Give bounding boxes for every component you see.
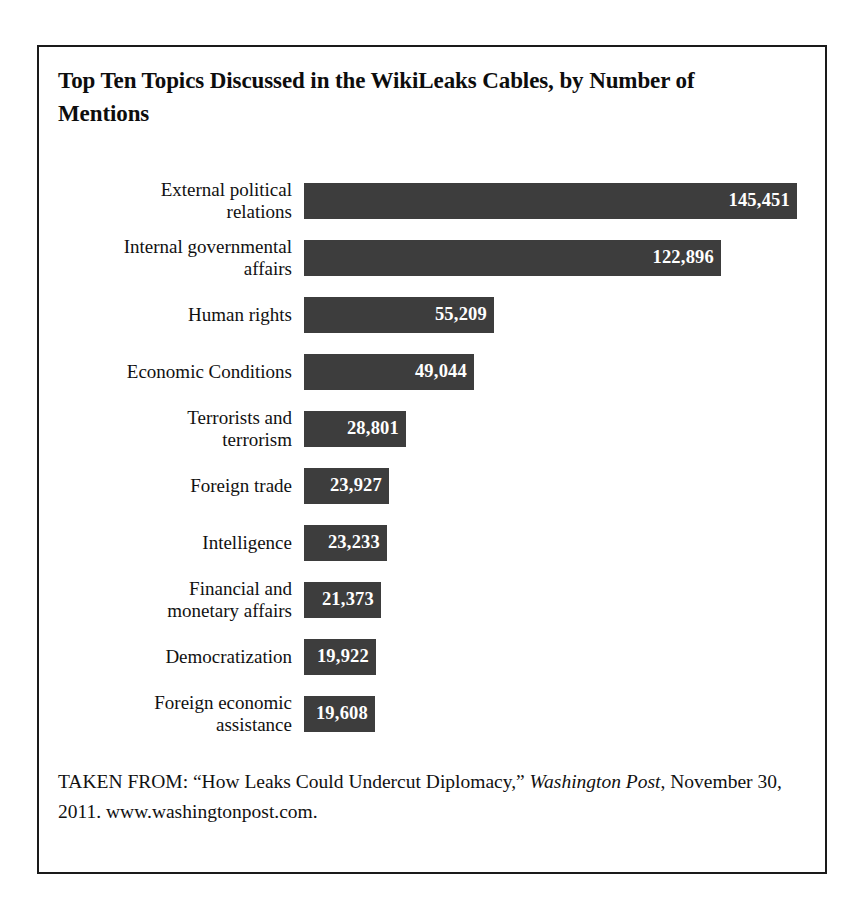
chart-row: Internal governmental affairs122,896 <box>39 229 825 286</box>
bar: 21,373 <box>304 582 381 618</box>
bar-category-label: Financial and monetary affairs <box>39 577 292 621</box>
bar: 19,608 <box>304 696 375 732</box>
bar-category-label: Intelligence <box>39 531 292 553</box>
bar-value-label: 23,233 <box>328 533 380 552</box>
bar-track: 49,044 <box>304 354 474 390</box>
bar-category-label: External political relations <box>39 178 292 222</box>
source-publication: Washington Post <box>530 771 661 792</box>
bar-track: 28,801 <box>304 411 406 447</box>
bar-track: 55,209 <box>304 297 494 333</box>
page-title: Top Ten Topics Discussed in the WikiLeak… <box>58 65 758 130</box>
source-citation: TAKEN FROM: “How Leaks Could Undercut Di… <box>58 767 803 826</box>
bar: 23,233 <box>304 525 387 561</box>
chart-row: Terrorists and terrorism28,801 <box>39 400 825 457</box>
bar-category-label: Terrorists and terrorism <box>39 406 292 450</box>
bar: 23,927 <box>304 468 389 504</box>
bar: 122,896 <box>304 240 721 276</box>
bar-value-label: 19,922 <box>317 647 369 666</box>
bar-track: 19,922 <box>304 639 376 675</box>
bar-category-label: Democratization <box>39 645 292 667</box>
figure-frame: Top Ten Topics Discussed in the WikiLeak… <box>37 45 827 874</box>
chart-row: External political relations145,451 <box>39 172 825 229</box>
bar-category-label: Human rights <box>39 303 292 325</box>
chart-row: Democratization19,922 <box>39 628 825 685</box>
bar-value-label: 122,896 <box>652 248 714 267</box>
bar-value-label: 21,373 <box>322 590 374 609</box>
chart-row: Financial and monetary affairs21,373 <box>39 571 825 628</box>
bar-value-label: 145,451 <box>728 191 790 210</box>
bar: 49,044 <box>304 354 474 390</box>
bar-track: 23,927 <box>304 468 389 504</box>
bar: 145,451 <box>304 183 797 219</box>
bar: 55,209 <box>304 297 494 333</box>
chart-row: Human rights55,209 <box>39 286 825 343</box>
bar-value-label: 19,608 <box>316 704 368 723</box>
bar-track: 145,451 <box>304 183 797 219</box>
bar-chart: External political relations145,451Inter… <box>39 172 825 752</box>
bar-category-label: Economic Conditions <box>39 360 292 382</box>
bar-value-label: 28,801 <box>347 419 399 438</box>
bar-value-label: 23,927 <box>330 476 382 495</box>
bar: 28,801 <box>304 411 406 447</box>
bar: 19,922 <box>304 639 376 675</box>
chart-row: Intelligence23,233 <box>39 514 825 571</box>
bar-category-label: Foreign trade <box>39 474 292 496</box>
bar-value-label: 49,044 <box>415 362 467 381</box>
bar-track: 23,233 <box>304 525 387 561</box>
bar-track: 122,896 <box>304 240 721 276</box>
chart-row: Foreign economic assistance19,608 <box>39 685 825 742</box>
bar-category-label: Foreign economic assistance <box>39 691 292 735</box>
bar-track: 19,608 <box>304 696 375 732</box>
bar-category-label: Internal governmental affairs <box>39 235 292 279</box>
chart-row: Economic Conditions49,044 <box>39 343 825 400</box>
chart-row: Foreign trade23,927 <box>39 457 825 514</box>
bar-track: 21,373 <box>304 582 381 618</box>
bar-value-label: 55,209 <box>435 305 487 324</box>
source-prefix: TAKEN FROM: “How Leaks Could Undercut Di… <box>58 771 530 792</box>
